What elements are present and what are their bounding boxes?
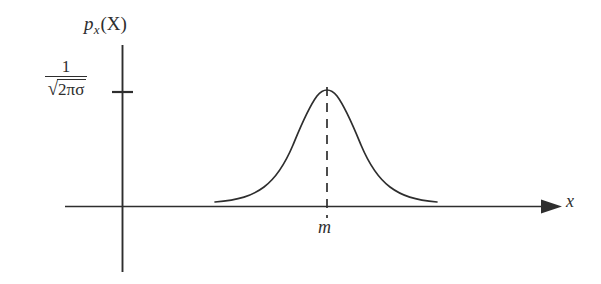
fraction: 1 √2πσ <box>44 58 89 98</box>
y-axis-tick-value: 1 √2πσ <box>22 58 110 98</box>
x-axis-arrowhead <box>541 200 562 214</box>
radicand: 2πσ <box>57 79 86 98</box>
y-axis-label-argument: (X) <box>100 13 126 34</box>
gaussian-density-figure: px(X) 1 √2πσ m x <box>0 0 601 284</box>
figure-canvas <box>0 0 601 284</box>
radical: √2πσ <box>46 79 87 98</box>
fraction-denominator: √2πσ <box>44 77 89 98</box>
x-axis-label: x <box>566 192 574 210</box>
y-axis-label-symbol: p <box>84 13 94 34</box>
mean-label: m <box>318 218 331 236</box>
y-axis-label-subscript: x <box>94 22 100 37</box>
gaussian-curve <box>215 90 437 202</box>
y-axis-label: px(X) <box>84 14 127 36</box>
fraction-numerator: 1 <box>44 58 89 76</box>
